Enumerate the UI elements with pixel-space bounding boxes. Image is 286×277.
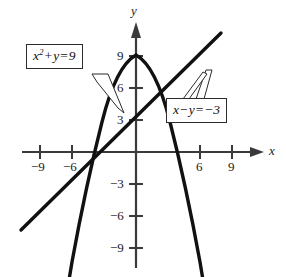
parabola-eq-equals: = — [59, 48, 69, 63]
parabola-equation-callout: x2+y=9 — [26, 44, 83, 69]
x-tick-label-neg9: −9 — [31, 160, 45, 173]
line-eq-y: y — [189, 102, 195, 117]
x-tick-label-neg6: −6 — [63, 160, 77, 173]
y-axis-label: y — [131, 4, 137, 17]
parabola-eq-value: 9 — [69, 48, 76, 63]
line-eq-value: −3 — [204, 102, 220, 117]
x-axis-label: x — [269, 144, 275, 157]
graph-figure: x y −9 −6 6 9 9 6 3 −3 −6 −9 x2+y=9 x−y=… — [0, 0, 286, 277]
line-eq-minus: − — [179, 102, 189, 117]
y-tick-label-9: 9 — [117, 49, 124, 62]
y-tick-label-neg6: −6 — [110, 209, 124, 222]
x-tick-label-9: 9 — [228, 160, 235, 173]
parabola-eq-plus: + — [44, 48, 54, 63]
y-tick-label-3: 3 — [117, 113, 124, 126]
y-tick-label-neg3: −3 — [110, 177, 124, 190]
y-tick-label-6: 6 — [117, 81, 124, 94]
x-tick-label-6: 6 — [196, 160, 203, 173]
x-axis — [22, 147, 264, 157]
coordinate-plot — [0, 0, 286, 277]
line-equation-callout: x−y=−3 — [166, 98, 227, 123]
parabola-eq-exponent: 2 — [39, 47, 44, 57]
y-tick-label-neg9: −9 — [110, 241, 124, 254]
line-eq-equals: = — [195, 102, 205, 117]
